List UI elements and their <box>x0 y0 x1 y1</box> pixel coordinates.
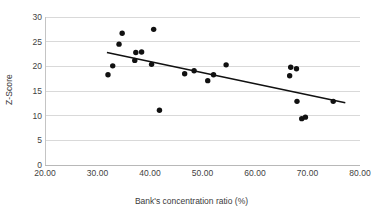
data-point <box>133 50 138 55</box>
data-point <box>119 31 124 36</box>
data-point <box>287 73 292 78</box>
x-tick-label-20.00: 20.00 <box>34 169 55 178</box>
data-point <box>223 62 228 67</box>
plot-area <box>0 0 383 219</box>
x-tick-label-30.00: 30.00 <box>87 169 108 178</box>
data-point <box>294 66 299 71</box>
data-point <box>182 71 187 76</box>
data-point <box>116 41 121 46</box>
data-point <box>139 49 144 54</box>
x-tick-label-50.00: 50.00 <box>192 169 213 178</box>
data-point <box>149 62 154 67</box>
data-point <box>110 63 115 68</box>
x-axis-title: Bank's concentration ratio (%) <box>0 196 383 206</box>
x-tick-label-80.00: 80.00 <box>349 169 370 178</box>
x-tick-label-70.00: 70.00 <box>297 169 318 178</box>
data-point <box>211 72 216 77</box>
data-point <box>191 68 196 73</box>
data-point <box>132 58 137 63</box>
data-point <box>331 99 336 104</box>
scatter-chart: Z-Score 051015202530 20.0030.0040.0050.0… <box>0 0 383 219</box>
data-point <box>205 78 210 83</box>
data-point <box>157 108 162 113</box>
x-tick-label-40.00: 40.00 <box>139 169 160 178</box>
trendline <box>107 53 345 103</box>
x-tick-label-60.00: 60.00 <box>244 169 265 178</box>
data-point <box>105 72 110 77</box>
data-point <box>288 65 293 70</box>
data-point <box>303 114 308 119</box>
data-point <box>294 99 299 104</box>
x-axis-tick-labels: 20.0030.0040.0050.0060.0070.0080.00 <box>0 169 383 181</box>
data-point <box>151 27 156 32</box>
